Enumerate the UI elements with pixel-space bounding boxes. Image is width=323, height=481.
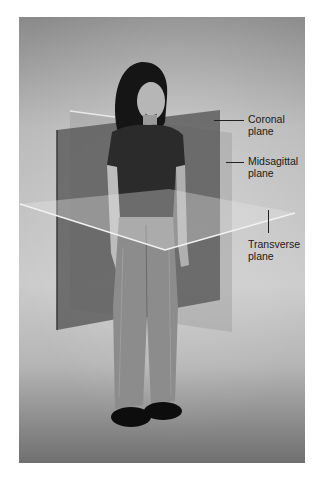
transverse-plane-label: Transverse plane xyxy=(248,238,300,262)
midsagittal-plane-label: Midsagittal plane xyxy=(248,155,298,179)
transverse-leader-line xyxy=(268,210,269,233)
right-shoe xyxy=(144,402,182,420)
midsagittal-leader-line xyxy=(226,162,244,163)
coronal-leader-line xyxy=(214,120,244,121)
coronal-plane-label: Coronal plane xyxy=(248,113,285,137)
face xyxy=(137,82,165,120)
